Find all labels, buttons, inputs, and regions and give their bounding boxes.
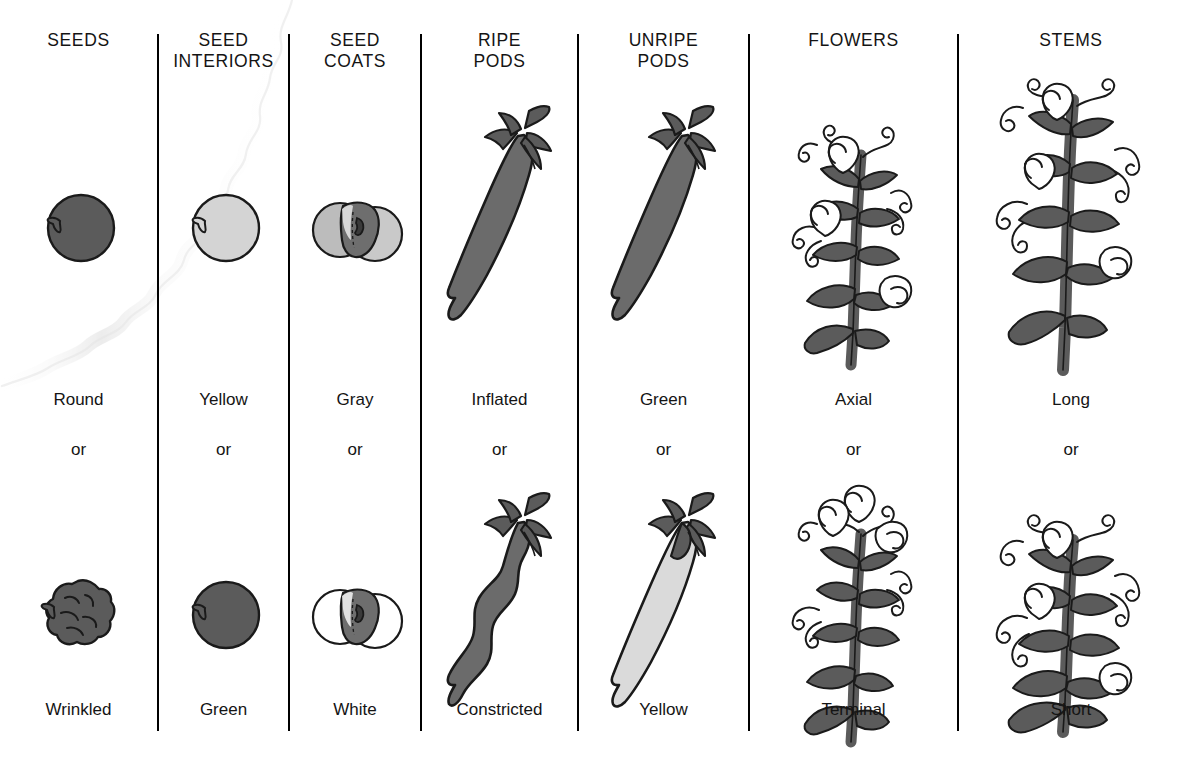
trait-column-stems: STEMS (959, 0, 1183, 767)
trait-connector: or (750, 440, 957, 460)
trait-label-dominant: Round (0, 390, 157, 410)
trait-column-seed-coats: SEED COATS Gray or (290, 0, 420, 767)
column-header: RIPE PODS (474, 30, 526, 72)
trait-art-green-pod (579, 78, 748, 378)
trait-label-recessive: White (290, 700, 420, 720)
trait-label-recessive: Green (159, 700, 288, 720)
trait-art-long-stem-plant (959, 78, 1183, 378)
trait-label-recessive: Terminal (750, 700, 957, 720)
column-header: FLOWERS (808, 30, 899, 51)
trait-art-axial-flower-plant (750, 78, 957, 378)
column-header: STEMS (1039, 30, 1102, 51)
column-header: SEED INTERIORS (173, 30, 274, 72)
column-header: UNRIPE PODS (629, 30, 699, 72)
trait-connector: or (959, 440, 1183, 460)
mendel-traits-figure: SEEDS Round or Wrinkled SEED INTERI (0, 0, 1183, 767)
trait-connector: or (579, 440, 748, 460)
trait-connector: or (290, 440, 420, 460)
trait-art-seed-interior-yellow (159, 78, 288, 378)
trait-label-recessive: Wrinkled (0, 700, 157, 720)
trait-art-inflated-pod (422, 78, 577, 378)
trait-column-unripe-pods: UNRIPE PODS Green or (579, 0, 748, 767)
trait-column-flowers: FLOWERS (750, 0, 957, 767)
trait-connector: or (422, 440, 577, 460)
trait-column-seeds: SEEDS Round or Wrinkled (0, 0, 157, 767)
trait-label-dominant: Yellow (159, 390, 288, 410)
trait-label-recessive: Short (959, 700, 1183, 720)
trait-art-round-seed (0, 78, 157, 378)
trait-column-seed-interiors: SEED INTERIORS Yellow or Green (159, 0, 288, 767)
trait-label-dominant: Long (959, 390, 1183, 410)
trait-label-recessive: Yellow (579, 700, 748, 720)
trait-label-dominant: Green (579, 390, 748, 410)
trait-art-seed-coat-gray (290, 78, 420, 378)
trait-column-ripe-pods: RIPE PODS Inflated or (422, 0, 577, 767)
trait-label-recessive: Constricted (422, 700, 577, 720)
column-header: SEEDS (47, 30, 109, 51)
column-header: SEED COATS (324, 30, 386, 72)
trait-connector: or (0, 440, 157, 460)
trait-label-dominant: Axial (750, 390, 957, 410)
trait-label-dominant: Inflated (422, 390, 577, 410)
trait-connector: or (159, 440, 288, 460)
trait-label-dominant: Gray (290, 390, 420, 410)
